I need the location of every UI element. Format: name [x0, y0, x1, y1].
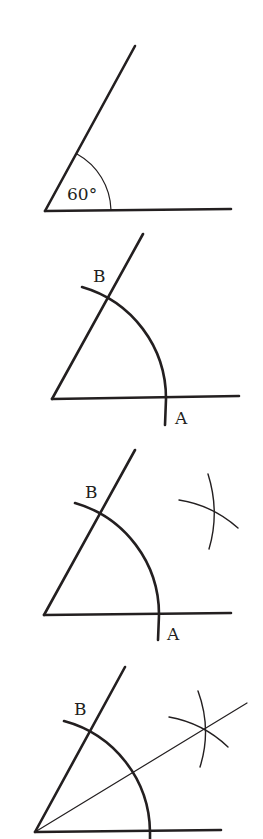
- compass-arc: [64, 721, 150, 839]
- angle-bisection-figure: 60° B A B A B: [0, 0, 263, 839]
- base-ray: [52, 396, 239, 399]
- upper-ray: [35, 667, 125, 832]
- step-3-cross-arcs: B A: [44, 450, 238, 644]
- point-label-a: A: [174, 408, 188, 428]
- compass-arc: [82, 287, 166, 425]
- base-ray: [35, 830, 221, 832]
- step-1-angle: 60°: [45, 46, 231, 211]
- point-label-b: B: [74, 699, 87, 719]
- compass-arc: [75, 503, 159, 640]
- point-label-b: B: [85, 482, 98, 502]
- base-ray: [44, 613, 231, 615]
- upper-ray: [52, 234, 143, 399]
- point-label-a: A: [166, 624, 180, 644]
- step-4-bisector: B: [35, 667, 247, 839]
- point-label-b: B: [93, 266, 106, 286]
- cross-arc-from-b: [179, 500, 238, 528]
- angle-label-60: 60°: [67, 184, 97, 204]
- step-2-arc: B A: [52, 234, 239, 428]
- upper-ray: [44, 450, 135, 615]
- base-ray: [45, 209, 231, 211]
